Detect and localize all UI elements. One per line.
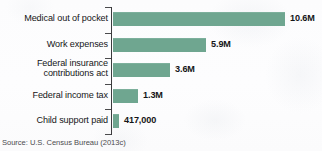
category-label: Federal income tax xyxy=(0,90,108,100)
bar-row: Federal income tax 1.3M xyxy=(0,89,322,113)
category-label: Work expenses xyxy=(0,39,108,49)
bar-child-support-paid xyxy=(113,114,119,128)
bar-value-label: 10.6M xyxy=(290,12,315,25)
bar-value-label: 417,000 xyxy=(124,114,156,127)
plot-area: Medical out of pocket 10.6M Work expense… xyxy=(0,0,322,137)
bar-value-label: 5.9M xyxy=(211,38,231,51)
category-label-line-1: Federal insurance xyxy=(0,58,108,68)
axis-tick-0 xyxy=(105,7,111,8)
bar-work-expenses xyxy=(113,38,206,52)
bar-value-label: 3.6M xyxy=(175,63,195,76)
bar-federal-insurance-contributions-act xyxy=(113,63,170,77)
bar-value-label: 1.3M xyxy=(143,89,163,102)
source-note: Source: U.S. Census Bureau (2013c) xyxy=(2,138,126,148)
category-label: Child support paid xyxy=(0,115,108,125)
category-label-line-2: contributions act xyxy=(0,68,108,78)
bar-chart: Medical out of pocket 10.6M Work expense… xyxy=(0,0,322,151)
bar-medical-out-of-pocket xyxy=(113,12,285,26)
bar-row: Federal insurance contributions act 3.6M xyxy=(0,62,322,86)
bar-row: Child support paid 417,000 xyxy=(0,114,322,138)
bar-federal-income-tax xyxy=(113,89,138,103)
bar-row: Medical out of pocket 10.6M xyxy=(0,12,322,36)
category-label: Medical out of pocket xyxy=(0,13,108,23)
